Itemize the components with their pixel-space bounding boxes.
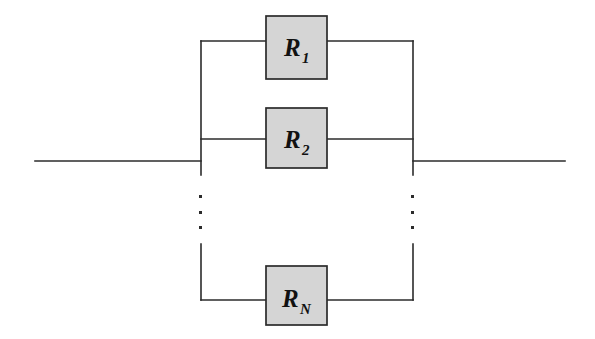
parallel-resistor-diagram: R 1 R 2 R N	[0, 0, 595, 339]
circuit-schematic-canvas: R 1 R 2 R N	[0, 0, 595, 339]
resistor-rn-label: R	[281, 285, 299, 312]
resistor-r2-subscript: 2	[301, 142, 310, 158]
branch-r1: R 1	[201, 16, 413, 79]
resistor-r1-subscript: 1	[302, 50, 310, 66]
ellipsis-dot	[411, 195, 414, 198]
vertical-ellipsis-left	[199, 195, 202, 229]
ellipsis-dot	[199, 195, 202, 198]
ellipsis-dot	[199, 211, 202, 214]
resistor-r2-label: R	[283, 126, 301, 153]
ellipsis-dot	[199, 226, 202, 229]
ellipsis-dot	[411, 226, 414, 229]
vertical-ellipsis-right	[411, 195, 414, 229]
branch-r2: R 2	[201, 108, 413, 168]
ellipsis-dot	[411, 211, 414, 214]
branch-rn: R N	[201, 266, 413, 325]
resistor-r1-label: R	[283, 34, 301, 61]
resistor-rn-subscript: N	[299, 301, 312, 317]
